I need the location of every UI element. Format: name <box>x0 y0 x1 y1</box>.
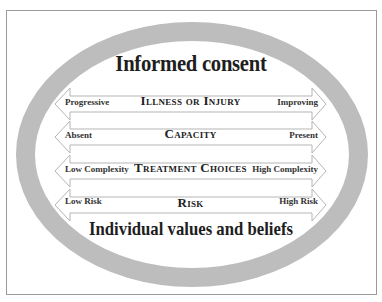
spectrum-right-label: Improving <box>277 97 318 107</box>
spectrum-right-label: High Complexity <box>252 164 318 174</box>
diagram-footer: Individual values and beliefs <box>23 218 359 240</box>
spectrum-risk: Low Risk Risk High Risk <box>55 193 326 213</box>
spectrum-illness: Progressive Illness or Injury Improving <box>55 94 326 114</box>
diagram-graphics <box>0 0 382 302</box>
spectrum-right-label: High Risk <box>279 196 318 206</box>
spectrum-name: Capacity <box>55 126 326 142</box>
spectrum-capacity: Absent Capacity Present <box>55 127 326 147</box>
diagram-title: Informed consent <box>27 50 356 77</box>
spectrum-right-label: Present <box>289 130 318 140</box>
spectrum-treatment-choices: Low Complexity Treatment Choices High Co… <box>55 161 326 181</box>
